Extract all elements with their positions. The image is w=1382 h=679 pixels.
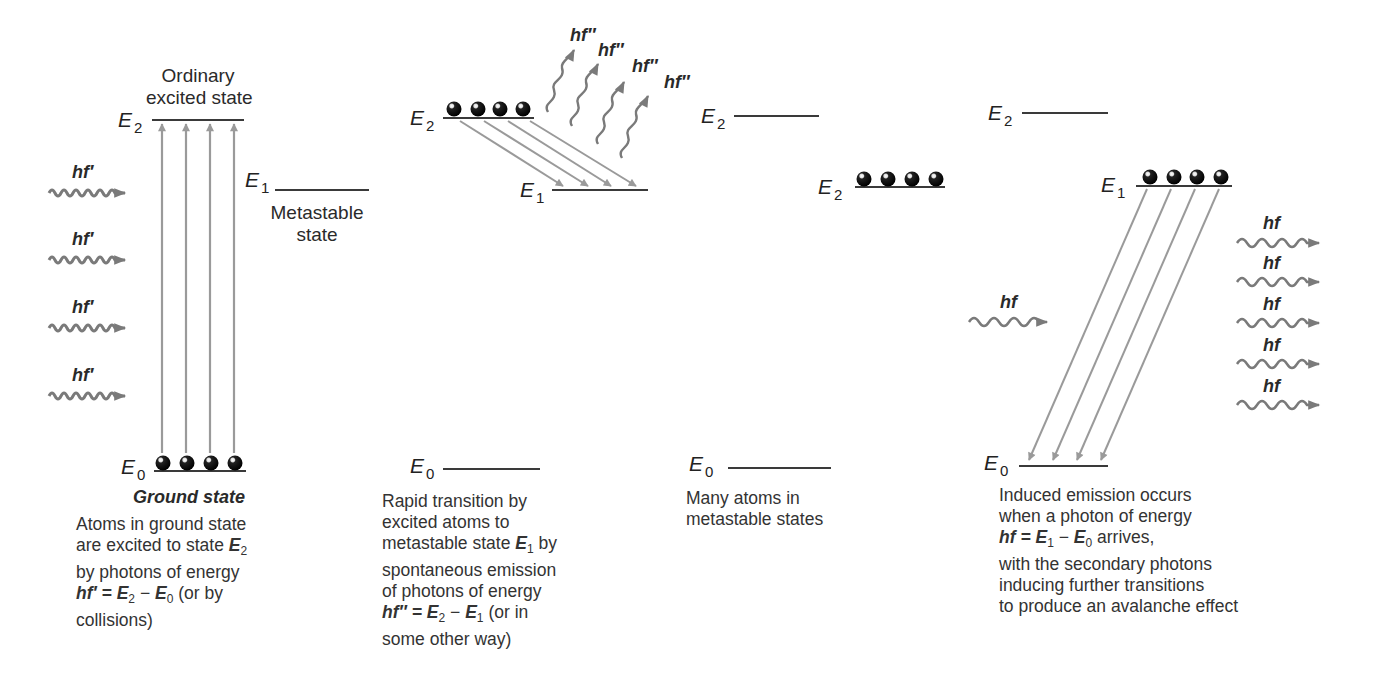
ground-state-label: Ground state	[133, 486, 245, 508]
caption-line: are excited to state E2	[76, 535, 247, 562]
caption-line: of photons of energy	[382, 581, 557, 602]
level-label-E2: E2	[118, 108, 142, 136]
photon-label-hf-prime: hf′	[72, 229, 93, 250]
ordinary-label-line1: Ordinary	[146, 65, 250, 87]
metastable-label-line2: state	[262, 224, 372, 246]
incoming-photon-label: hf	[1000, 292, 1017, 313]
caption-induced-emission: Induced emission occurs when a photon of…	[999, 485, 1238, 617]
metastable-label-line1: Metastable	[262, 202, 372, 224]
level-label-E0: E0	[984, 451, 1008, 479]
caption-line: excited atoms to	[382, 512, 557, 533]
E2-atoms	[447, 102, 531, 117]
outgoing-photon-label: hf	[1263, 376, 1280, 397]
photon-label-hf-prime: hf′	[72, 365, 93, 386]
level-label-E0: E0	[410, 454, 434, 482]
ordinary-label-line2: excited state	[146, 87, 250, 109]
level-label-E2-top: E2	[701, 104, 725, 132]
panel-excitation	[49, 120, 369, 471]
caption-line: inducing further transitions	[999, 575, 1238, 596]
photon-label-hf-prime: hf′	[72, 297, 93, 318]
photon-label-hf-double-prime: hf″	[570, 25, 596, 46]
photon-label-hf-prime: hf′	[72, 162, 93, 183]
caption-equation: hf = E1 − E0 arrives,	[999, 527, 1238, 554]
outgoing-photon-label: hf	[1263, 253, 1280, 274]
caption-line: spontaneous emission	[382, 560, 557, 581]
outgoing-photon-label: hf	[1263, 294, 1280, 315]
level-label-E0: E0	[121, 455, 145, 483]
decay-arrows	[460, 121, 636, 186]
caption-excitation: Atoms in ground state are excited to sta…	[76, 514, 247, 631]
panel-induced-emission	[969, 113, 1319, 466]
metastable-atoms	[857, 172, 944, 187]
outgoing-photon-label: hf	[1263, 335, 1280, 356]
caption-equation: hf′ = E2 − E0 (or by	[76, 583, 247, 610]
E1-atoms	[1143, 170, 1229, 185]
caption-line: Atoms in ground state	[76, 514, 247, 535]
panel-population-inversion	[728, 116, 945, 468]
photon-label-hf-double-prime: hf″	[632, 56, 658, 77]
level-label-E1: E1	[520, 178, 544, 206]
photon-label-hf-double-prime: hf″	[598, 40, 624, 61]
ordinary-excited-state-label: Ordinary excited state	[146, 65, 250, 109]
caption-line: Many atoms in	[686, 488, 823, 509]
caption-line: when a photon of energy	[999, 506, 1238, 527]
caption-equation: hf″ = E2 − E1 (or in	[382, 602, 557, 629]
ground-atoms	[156, 456, 243, 471]
level-label-E2: E2	[988, 101, 1012, 129]
caption-line: Induced emission occurs	[999, 485, 1238, 506]
caption-line: by photons of energy	[76, 562, 247, 583]
caption-line: metastable states	[686, 509, 823, 530]
caption-line: Rapid transition by	[382, 491, 557, 512]
caption-population-inversion: Many atoms in metastable states	[686, 488, 823, 530]
caption-line: to produce an avalanche effect	[999, 596, 1238, 617]
incoming-photon	[969, 318, 1047, 326]
level-label-E2: E2	[410, 106, 434, 134]
caption-line: with the secondary photons	[999, 554, 1238, 575]
metastable-state-label: Metastable state	[262, 202, 372, 246]
level-label-E2-middle: E2	[818, 175, 842, 203]
caption-line: metastable state E1 by	[382, 533, 557, 560]
level-label-E1: E1	[245, 168, 269, 196]
level-label-E0: E0	[689, 452, 713, 480]
excitation-arrows	[162, 124, 234, 453]
caption-spontaneous-emission: Rapid transition by excited atoms to met…	[382, 491, 557, 650]
outgoing-photon-label: hf	[1263, 213, 1280, 234]
level-label-E1: E1	[1101, 173, 1125, 201]
caption-line: some other way)	[382, 629, 557, 650]
stimulated-transition-arrows	[1029, 189, 1219, 460]
panel-spontaneous-emission	[443, 50, 648, 469]
caption-line: collisions)	[76, 610, 247, 631]
photon-label-hf-double-prime: hf″	[664, 72, 690, 93]
